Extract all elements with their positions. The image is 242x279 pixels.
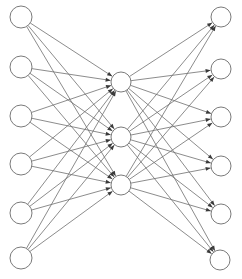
edge-h1-o5 xyxy=(127,90,215,206)
output-node-o3 xyxy=(211,107,231,127)
output-node-o4 xyxy=(211,156,231,176)
input-node-i1 xyxy=(10,6,32,28)
edge-i1-h1 xyxy=(30,23,112,76)
edge-i3-h1 xyxy=(31,85,111,112)
hidden-node-h3 xyxy=(111,175,131,195)
edge-i5-h3 xyxy=(32,188,111,210)
edge-i1-h2 xyxy=(28,25,114,128)
edge-i6-h1 xyxy=(26,91,115,248)
edge-h1-o1 xyxy=(129,23,212,77)
output-node-o5 xyxy=(211,204,231,224)
edge-i5-h1 xyxy=(28,90,115,204)
edge-h1-o3 xyxy=(130,85,211,113)
network-nodes xyxy=(10,6,231,270)
input-node-i4 xyxy=(10,153,32,175)
input-node-i2 xyxy=(10,56,32,78)
output-node-o2 xyxy=(211,59,231,79)
input-node-i6 xyxy=(10,247,32,269)
input-node-i3 xyxy=(10,105,32,127)
edge-h3-o5 xyxy=(131,188,211,211)
edge-h1-o2 xyxy=(131,70,211,80)
edge-h2-o2 xyxy=(129,75,212,131)
edge-h3-o1 xyxy=(126,26,216,176)
input-node-i5 xyxy=(10,202,32,224)
hidden-node-h1 xyxy=(111,72,131,92)
output-node-o6 xyxy=(210,250,230,270)
edge-i2-h1 xyxy=(32,69,111,81)
neural-network-diagram xyxy=(0,0,242,279)
edge-h3-o2 xyxy=(128,77,215,177)
edge-i1-h3 xyxy=(27,26,116,176)
output-node-o1 xyxy=(211,7,231,27)
hidden-node-h2 xyxy=(111,127,131,147)
edge-i6-h2 xyxy=(28,145,114,249)
edge-i4-h2 xyxy=(32,140,111,161)
edge-h2-o1 xyxy=(127,25,214,129)
